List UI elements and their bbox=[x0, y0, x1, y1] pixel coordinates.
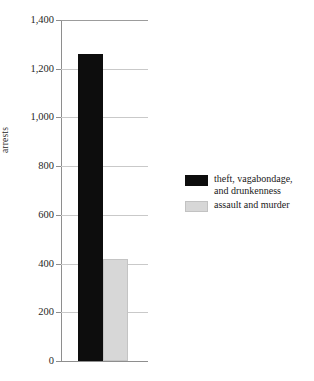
legend-item-0: theft, vagabondage, and drunkenness bbox=[185, 173, 313, 196]
y-tick-mark bbox=[56, 215, 61, 216]
y-tick-label: 0 bbox=[0, 355, 54, 366]
y-tick-mark bbox=[56, 20, 61, 21]
y-tick-label: 200 bbox=[0, 306, 54, 317]
black-swatch bbox=[185, 175, 208, 186]
y-tick-mark bbox=[56, 312, 61, 313]
y-tick-label: 1,400 bbox=[0, 14, 54, 25]
bar-chart: arrests 1,4001,2001,0008006004002000 the… bbox=[0, 0, 314, 381]
y-tick-mark bbox=[56, 264, 61, 265]
chart-legend: theft, vagabondage, and drunkennessassau… bbox=[185, 173, 313, 215]
legend-item-1: assault and murder bbox=[185, 199, 313, 212]
bar-series-0 bbox=[78, 54, 103, 361]
gridline-1200 bbox=[61, 69, 148, 70]
y-tick-label: 800 bbox=[0, 160, 54, 171]
y-tick-mark bbox=[56, 166, 61, 167]
bar-series-1 bbox=[103, 259, 128, 361]
gridline-1000 bbox=[61, 117, 148, 118]
legend-label-1: assault and murder bbox=[214, 199, 290, 211]
y-tick-label: 1,000 bbox=[0, 111, 54, 122]
gridline-600 bbox=[61, 215, 148, 216]
y-tick-mark bbox=[56, 117, 61, 118]
y-axis-spine bbox=[61, 20, 62, 362]
gray-swatch bbox=[185, 201, 208, 212]
y-tick-label: 1,200 bbox=[0, 63, 54, 74]
y-tick-label: 400 bbox=[0, 258, 54, 269]
legend-label-0: theft, vagabondage, and drunkenness bbox=[214, 173, 293, 196]
gridline-0 bbox=[61, 361, 148, 362]
y-tick-mark bbox=[56, 361, 61, 362]
y-tick-mark bbox=[56, 69, 61, 70]
gridline-800 bbox=[61, 166, 148, 167]
gridline-1400 bbox=[61, 20, 148, 21]
y-tick-label: 600 bbox=[0, 209, 54, 220]
